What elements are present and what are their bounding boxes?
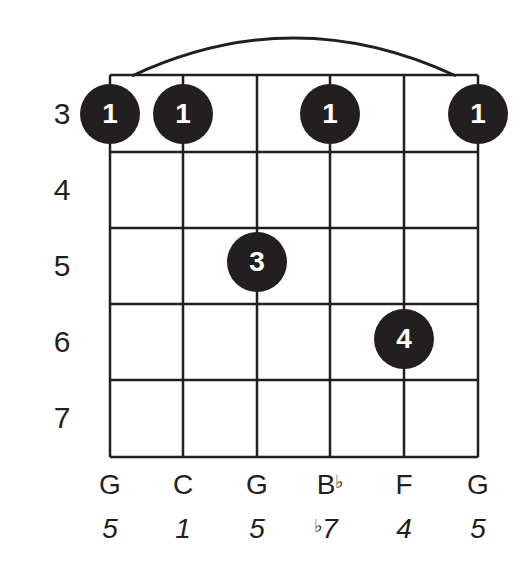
finger-dot: 1 <box>153 84 213 144</box>
barre-arc <box>132 38 456 76</box>
interval-degree: 5 <box>80 515 140 543</box>
interval-degree: ♭7 <box>296 515 356 543</box>
interval-degree: 5 <box>227 515 287 543</box>
finger-dot: 1 <box>300 84 360 144</box>
fret-number-6: 6 <box>42 327 82 357</box>
string-note: G <box>227 471 287 499</box>
string-note: C <box>153 471 213 499</box>
finger-dot: 3 <box>227 232 287 292</box>
finger-dot: 4 <box>374 309 434 369</box>
interval-degree: 5 <box>448 515 508 543</box>
fret-number-5: 5 <box>42 251 82 281</box>
interval-degree: 4 <box>374 515 434 543</box>
fret-number-4: 4 <box>42 175 82 205</box>
string-note: G <box>448 471 508 499</box>
fret-number-3: 3 <box>42 99 82 129</box>
interval-degree: 1 <box>153 515 213 543</box>
string-note: G <box>80 471 140 499</box>
string-note: B♭ <box>300 471 360 499</box>
finger-dot: 1 <box>80 84 140 144</box>
fret-number-7: 7 <box>42 403 82 433</box>
flat-sign: ♭ <box>314 516 322 536</box>
string-note: F <box>374 471 434 499</box>
finger-dot: 1 <box>448 84 508 144</box>
flat-sign: ♭ <box>335 472 343 492</box>
